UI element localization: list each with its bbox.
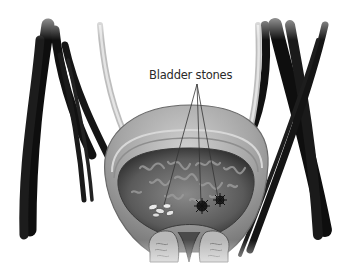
left-ureter	[100, 25, 125, 135]
bladder-lumen	[118, 148, 254, 232]
left-blood-vessels	[24, 25, 110, 235]
bladder-stones-label: Bladder stones	[149, 68, 232, 82]
bladder-illustration	[0, 0, 355, 280]
